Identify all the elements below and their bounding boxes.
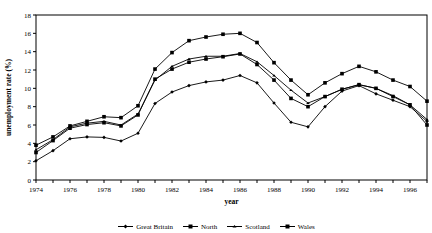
data-point <box>425 99 429 103</box>
legend-item-label: Scotland <box>245 223 270 231</box>
data-point <box>374 87 378 91</box>
legend-item-scotland[interactable]: Scotland <box>226 222 270 231</box>
data-point <box>85 123 89 127</box>
x-axis-tick-label: 1980 <box>131 186 146 194</box>
y-axis-tick-label: 14 <box>24 48 32 56</box>
data-point <box>306 93 310 97</box>
data-point <box>255 41 259 45</box>
data-point <box>170 51 174 55</box>
plot-frame <box>36 15 427 180</box>
data-point <box>357 65 361 69</box>
data-point <box>153 77 157 81</box>
legend-marker-icon <box>279 222 296 231</box>
data-point <box>221 32 225 36</box>
legend-item-label: Wales <box>298 223 315 231</box>
data-point <box>136 104 140 108</box>
data-point <box>289 78 293 82</box>
data-point <box>153 67 157 71</box>
data-point <box>272 61 276 65</box>
legend-key-marker <box>285 225 289 229</box>
data-point <box>34 143 38 147</box>
data-point <box>408 85 412 89</box>
data-point <box>119 124 123 128</box>
y-axis-tick-label: 10 <box>24 85 32 93</box>
data-point <box>391 95 395 99</box>
x-axis-tick-label: 1994 <box>369 186 384 194</box>
y-axis-title: unemployment rate (%) <box>4 58 13 136</box>
legend-item-great-britain[interactable]: Great Britain <box>117 222 173 231</box>
data-point <box>289 97 293 101</box>
data-point <box>204 35 208 39</box>
y-axis-tick-label: 2 <box>28 158 32 166</box>
data-point <box>374 70 378 74</box>
data-point <box>357 83 361 87</box>
x-axis-tick-label: 1992 <box>335 186 350 194</box>
legend-key-marker <box>188 225 192 229</box>
y-axis-tick-label: 8 <box>28 103 32 111</box>
legend-item-label: North <box>201 223 217 231</box>
legend-marker-icon <box>182 222 199 231</box>
x-axis-tick-label: 1984 <box>199 186 214 194</box>
data-point <box>323 81 327 85</box>
y-axis-tick-label: 12 <box>24 67 32 75</box>
legend-marker-icon <box>226 222 243 231</box>
data-point <box>340 72 344 76</box>
x-axis-tick-label: 1974 <box>29 186 44 194</box>
legend-item-north[interactable]: North <box>182 222 217 231</box>
data-point <box>255 63 259 67</box>
data-point <box>272 78 276 82</box>
x-axis-title: year <box>224 197 239 206</box>
legend-marker-icon <box>117 222 134 231</box>
y-axis-tick-label: 16 <box>24 30 32 38</box>
data-point <box>238 32 242 36</box>
x-axis-tick-label: 1976 <box>63 186 78 194</box>
y-axis-tick-label: 18 <box>24 12 32 20</box>
x-axis-tick-label: 1996 <box>403 186 418 194</box>
data-point <box>51 139 55 143</box>
x-axis-tick-label: 1990 <box>301 186 316 194</box>
x-axis-tick-label: 1988 <box>267 186 282 194</box>
legend-key-marker <box>124 225 128 229</box>
x-axis-tick-label: 1982 <box>165 186 180 194</box>
data-point <box>68 126 72 130</box>
x-axis-tick-label: 1986 <box>233 186 248 194</box>
y-axis-tick-label: 6 <box>28 122 32 130</box>
data-point <box>34 151 38 155</box>
x-axis-tick-label: 1978 <box>97 186 112 194</box>
data-point <box>119 116 123 120</box>
data-point <box>204 57 208 61</box>
data-point <box>340 87 344 91</box>
data-point <box>425 123 429 127</box>
data-point <box>306 105 310 109</box>
data-point <box>187 39 191 43</box>
data-point <box>187 60 191 64</box>
data-point <box>323 95 327 99</box>
data-point <box>102 115 106 119</box>
data-point <box>136 113 140 117</box>
data-point <box>102 121 106 125</box>
chart-legend: Great BritainNorthScotlandWales <box>0 222 432 231</box>
y-axis-tick-label: 0 <box>28 177 32 185</box>
chart-canvas: 0246810121416181974197619781980198219841… <box>0 0 432 210</box>
data-point <box>391 78 395 82</box>
data-point <box>170 67 174 71</box>
unemployment-rate-line-chart: 0246810121416181974197619781980198219841… <box>0 0 432 233</box>
data-point <box>238 52 242 56</box>
data-point <box>221 55 225 59</box>
legend-item-wales[interactable]: Wales <box>279 222 315 231</box>
data-point <box>408 103 412 107</box>
legend-item-label: Great Britain <box>136 223 173 231</box>
y-axis-tick-label: 4 <box>28 140 32 148</box>
